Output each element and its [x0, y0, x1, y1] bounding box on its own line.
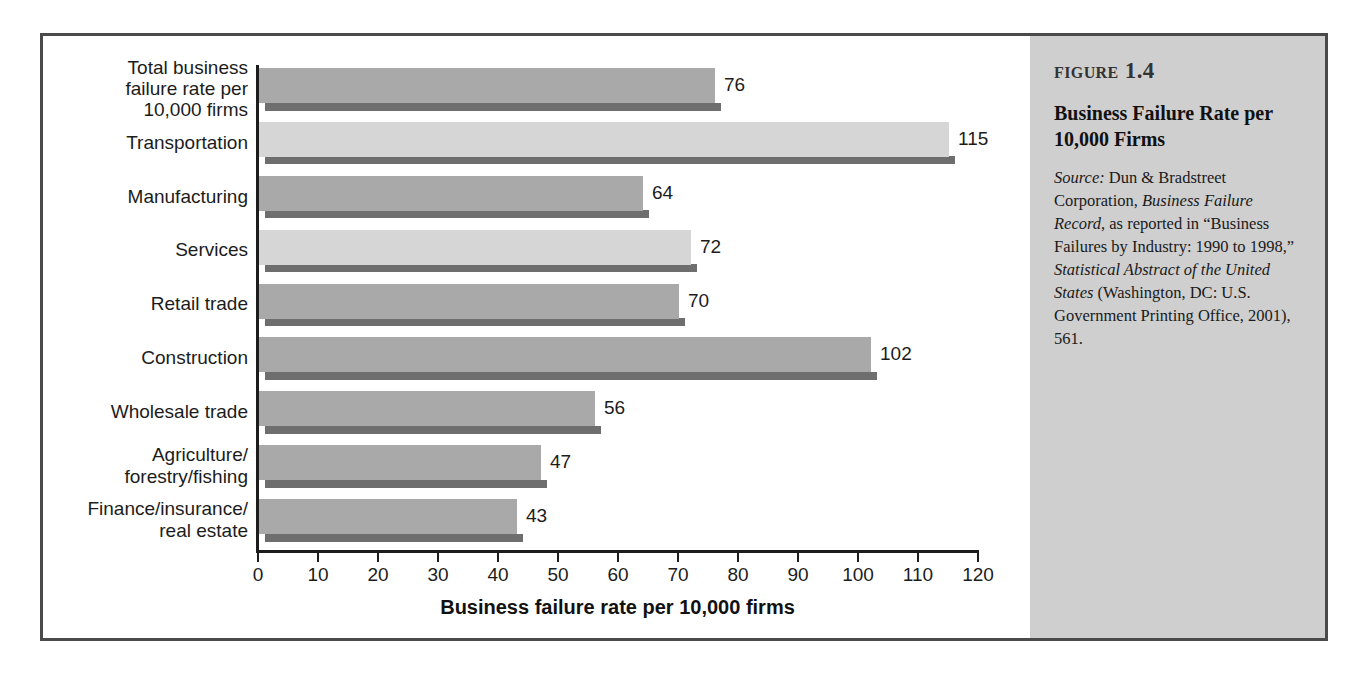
category-label-line: 10,000 firms — [43, 99, 248, 120]
category-label-line: Construction — [43, 347, 248, 368]
x-axis-tick-label: 110 — [903, 564, 933, 586]
x-axis-tick-mark — [797, 553, 799, 562]
bar[interactable] — [259, 391, 595, 426]
bar-row[interactable]: 70 — [259, 281, 979, 330]
bar-row[interactable]: 102 — [259, 334, 979, 383]
x-axis-tick-mark — [497, 553, 499, 562]
category-label-line: Finance/insurance/ — [43, 498, 248, 519]
caption-sidebar: Figure 1.4 Business Failure Rate per 10,… — [1030, 36, 1325, 638]
x-axis-tick-mark — [737, 553, 739, 562]
category-label-line: Agriculture/ — [43, 444, 248, 465]
bar-row[interactable]: 43 — [259, 496, 979, 545]
x-axis-tick-label: 40 — [487, 564, 508, 586]
bar-row[interactable]: 47 — [259, 442, 979, 491]
category-label: Transportation — [43, 132, 248, 153]
figure-number-word: Figure — [1054, 58, 1119, 83]
bar-row[interactable]: 76 — [259, 65, 979, 114]
plot-area: 0102030405060708090100110120761156472701… — [256, 65, 976, 550]
bar[interactable] — [259, 122, 949, 157]
category-label-line: Transportation — [43, 132, 248, 153]
x-axis-tick-mark — [437, 553, 439, 562]
bar-value-label: 47 — [550, 451, 571, 473]
figure-title: Business Failure Rate per 10,000 Firms — [1054, 100, 1299, 153]
x-axis-tick-label: 50 — [547, 564, 568, 586]
bar-shadow — [265, 534, 523, 542]
bar-shadow — [265, 210, 649, 218]
bar[interactable] — [259, 284, 679, 319]
category-label-line: forestry/fishing — [43, 466, 248, 487]
bar-value-label: 70 — [688, 290, 709, 312]
bar-value-label: 43 — [526, 505, 547, 527]
bar-shadow — [265, 480, 547, 488]
x-axis-tick-label: 90 — [787, 564, 808, 586]
category-label: Manufacturing — [43, 186, 248, 207]
category-label-line: real estate — [43, 520, 248, 541]
bar-row[interactable]: 115 — [259, 119, 979, 168]
x-axis-title: Business failure rate per 10,000 firms — [256, 596, 979, 619]
x-axis-tick-mark — [317, 553, 319, 562]
bar[interactable] — [259, 337, 871, 372]
bar-shadow — [265, 264, 697, 272]
category-label-line: Services — [43, 239, 248, 260]
bar[interactable] — [259, 499, 517, 534]
category-label-line: Wholesale trade — [43, 401, 248, 422]
bar[interactable] — [259, 230, 691, 265]
bar-row[interactable]: 72 — [259, 227, 979, 276]
x-axis-tick-mark — [557, 553, 559, 562]
bar-shadow — [265, 318, 685, 326]
bar-value-label: 56 — [604, 397, 625, 419]
x-axis-tick-mark — [677, 553, 679, 562]
bar-value-label: 76 — [724, 74, 745, 96]
figure-frame: Total businessfailure rate per10,000 fir… — [40, 33, 1328, 641]
figure-source-note: Source: Dun & Bradstreet Corporation, Bu… — [1054, 166, 1299, 351]
bar-row[interactable]: 56 — [259, 388, 979, 437]
bar-row[interactable]: 64 — [259, 173, 979, 222]
bar[interactable] — [259, 176, 643, 211]
x-axis-tick-label: 30 — [427, 564, 448, 586]
bar-shadow — [265, 372, 877, 380]
category-label: Services — [43, 239, 248, 260]
category-axis-labels: Total businessfailure rate per10,000 fir… — [43, 65, 248, 550]
x-axis-tick-mark — [617, 553, 619, 562]
category-label-line: Total business — [43, 57, 248, 78]
category-label: Finance/insurance/real estate — [43, 498, 248, 541]
bar-value-label: 115 — [958, 128, 988, 150]
x-axis-tick-mark — [977, 553, 979, 562]
category-label-line: Retail trade — [43, 293, 248, 314]
x-axis-tick-mark — [257, 553, 259, 562]
figure-number: Figure 1.4 — [1054, 58, 1299, 84]
x-axis-tick-label: 20 — [367, 564, 388, 586]
x-axis-tick-mark — [857, 553, 859, 562]
figure-number-value: 1.4 — [1125, 58, 1155, 83]
bar[interactable] — [259, 68, 715, 103]
x-axis-tick-mark — [377, 553, 379, 562]
bar-value-label: 64 — [652, 182, 673, 204]
category-label: Retail trade — [43, 293, 248, 314]
category-label: Construction — [43, 347, 248, 368]
bar-value-label: 72 — [700, 236, 721, 258]
bar-shadow — [265, 426, 601, 434]
category-label: Wholesale trade — [43, 401, 248, 422]
chart-panel: Total businessfailure rate per10,000 fir… — [43, 36, 1030, 638]
source-label: Source: — [1054, 168, 1105, 187]
bar-value-label: 102 — [880, 343, 912, 365]
x-axis-tick-label: 70 — [667, 564, 688, 586]
x-axis-tick-label: 120 — [962, 564, 994, 586]
x-axis-tick-label: 10 — [307, 564, 328, 586]
x-axis-tick-label: 80 — [727, 564, 748, 586]
x-axis-tick-label: 0 — [253, 564, 264, 586]
bar[interactable] — [259, 445, 541, 480]
bar-shadow — [265, 156, 955, 164]
category-label: Agriculture/forestry/fishing — [43, 444, 248, 487]
x-axis-tick-label: 60 — [607, 564, 628, 586]
x-axis-tick-mark — [917, 553, 919, 562]
category-label-line: failure rate per — [43, 78, 248, 99]
bar-shadow — [265, 103, 721, 111]
x-axis-tick-label: 100 — [842, 564, 874, 586]
category-label: Total businessfailure rate per10,000 fir… — [43, 57, 248, 121]
category-label-line: Manufacturing — [43, 186, 248, 207]
